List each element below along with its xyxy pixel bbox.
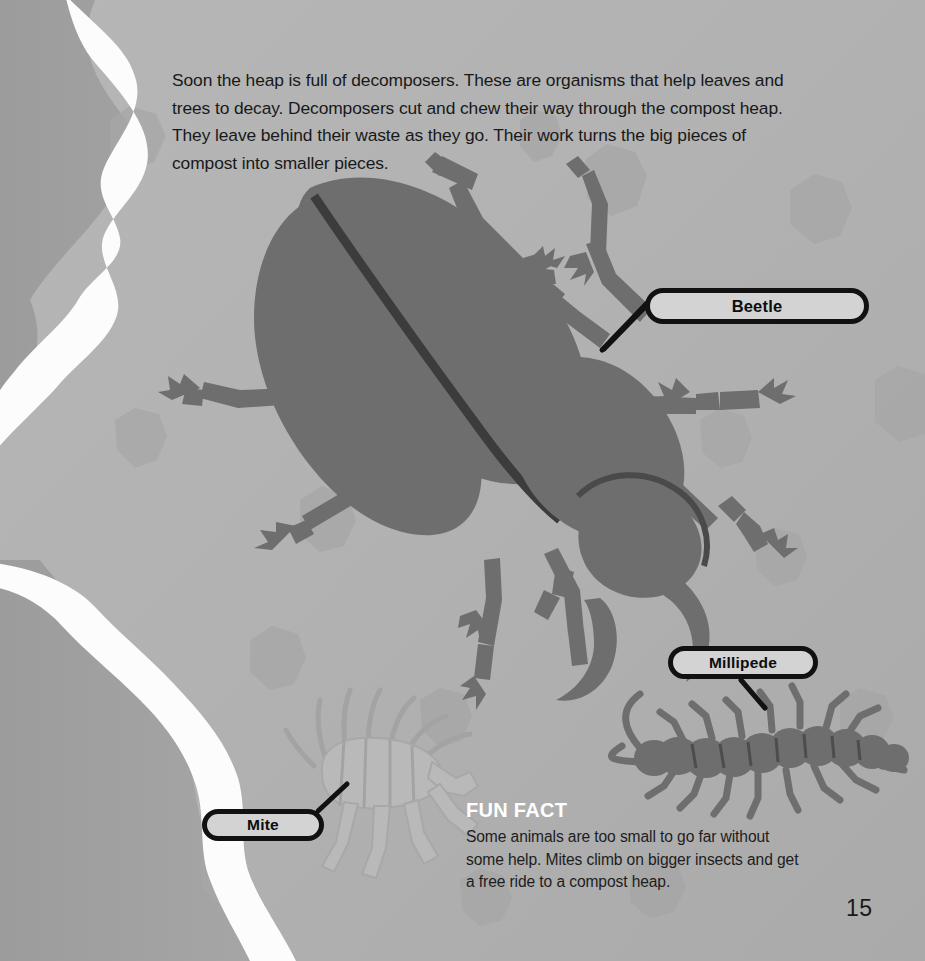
callout-beetle-label: Beetle [732, 297, 783, 316]
callout-millipede[interactable]: Millipede [668, 646, 818, 679]
book-page: Soon the heap is full of decomposers. Th… [0, 0, 925, 961]
callout-mite[interactable]: Mite [202, 809, 324, 841]
page-number: 15 [846, 895, 873, 922]
callout-beetle[interactable]: Beetle [645, 288, 869, 324]
fun-fact-title: FUN FACT [466, 798, 806, 822]
intro-paragraph: Soon the heap is full of decomposers. Th… [172, 67, 792, 177]
callout-mite-label: Mite [247, 816, 279, 834]
callout-millipede-label: Millipede [709, 654, 777, 672]
fun-fact-box: FUN FACT Some animals are too small to g… [466, 798, 806, 894]
fun-fact-body: Some animals are too small to go far wit… [466, 826, 806, 894]
